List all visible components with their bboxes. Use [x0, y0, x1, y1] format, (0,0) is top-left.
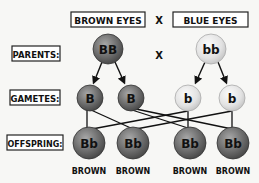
svg-text:Bb: Bb	[124, 137, 142, 151]
meiosis-arrows	[94, 62, 226, 82]
gamete-sphere: B	[77, 85, 103, 111]
gamete-sphere: b	[219, 85, 245, 111]
fertilization-lines	[87, 109, 232, 130]
row-label-parents: PARENTS:	[12, 46, 60, 61]
svg-text:b: b	[184, 92, 193, 106]
svg-text:PARENTS:: PARENTS:	[13, 50, 60, 60]
offspring-phenotype: BROWN	[116, 167, 151, 176]
offspring-sphere: Bb BROWN	[116, 127, 151, 176]
row-label-offspring: OFFSPRING:	[7, 135, 63, 150]
offspring-sphere: Bb BROWN	[173, 127, 208, 176]
trait-label-blue: BLUE EYES	[183, 16, 237, 26]
svg-text:Bb: Bb	[80, 137, 98, 151]
svg-text:OFFSPRING:: OFFSPRING:	[8, 140, 63, 149]
svg-text:BB: BB	[99, 43, 117, 57]
row-label-gametes: GAMETES:	[10, 90, 60, 105]
svg-text:bb: bb	[202, 43, 220, 57]
svg-text:b: b	[228, 92, 237, 106]
svg-text:GAMETES:: GAMETES:	[11, 94, 60, 104]
offspring-phenotype: BROWN	[216, 167, 251, 176]
svg-text:B: B	[126, 92, 135, 106]
parent-brown-sphere: BB	[93, 34, 123, 64]
cross-symbol-header: X	[155, 15, 163, 26]
svg-text:Bb: Bb	[224, 137, 242, 151]
offspring-phenotype: BROWN	[173, 167, 208, 176]
svg-text:B: B	[85, 92, 94, 106]
offspring-phenotype: BROWN	[72, 167, 107, 176]
parent-blue-sphere: bb	[196, 34, 226, 64]
punnett-cross-diagram: BROWN EYES X BLUE EYES PARENTS: GAMETES:…	[0, 0, 259, 183]
svg-text:Bb: Bb	[181, 137, 199, 151]
offspring-sphere: Bb BROWN	[72, 127, 107, 176]
offspring-sphere: Bb BROWN	[216, 127, 251, 176]
trait-label-brown: BROWN EYES	[74, 16, 141, 26]
trait-box-brown-eyes: BROWN EYES	[71, 12, 145, 27]
trait-box-blue-eyes: BLUE EYES	[173, 12, 248, 27]
gamete-sphere: b	[175, 85, 201, 111]
gamete-sphere: B	[118, 85, 144, 111]
cross-symbol-parents: X	[155, 50, 163, 61]
